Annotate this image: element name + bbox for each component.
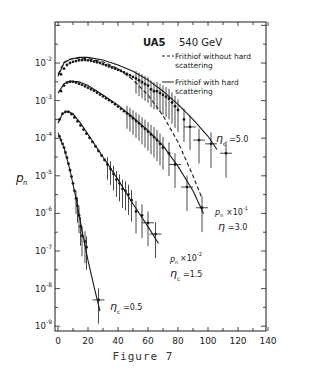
svg-text:×10: ×10: [180, 254, 197, 263]
data-point: [141, 204, 144, 238]
data-point: [144, 76, 147, 101]
data-point: [124, 181, 127, 210]
svg-text:-2: -2: [197, 251, 202, 257]
data-point: [90, 59, 93, 62]
annotation-eta-3: p n ×10 -1 η =3.0: [214, 205, 248, 233]
data-point: [120, 69, 123, 72]
data-point: [72, 182, 75, 185]
svg-text:n: n: [220, 212, 223, 218]
data-point: [91, 141, 94, 144]
data-point: [73, 189, 76, 192]
svg-text:10: 10: [35, 321, 46, 331]
x-tick-label: 140: [259, 336, 276, 346]
curve-with-hard-scattering: [58, 57, 217, 149]
data-point: [75, 60, 78, 63]
data-point: [69, 80, 72, 83]
data-point: [81, 226, 84, 256]
data-point: [79, 217, 82, 246]
plot-frame: 02040608010012014010-210-310-410-510-610…: [35, 22, 277, 346]
data-point: [126, 73, 129, 76]
x-tick-label: 80: [172, 336, 184, 346]
svg-text:=0.5: =0.5: [123, 303, 142, 312]
data-point: [120, 107, 123, 110]
data-point: [93, 60, 96, 63]
y-tick-label: 10-6: [35, 205, 52, 218]
x-tick-label: 0: [55, 336, 61, 346]
svg-text:10: 10: [35, 58, 46, 68]
data-point: [84, 85, 87, 88]
data-point: [153, 127, 156, 157]
data-point: [142, 211, 154, 246]
data-point: [79, 124, 82, 127]
data-point: [108, 99, 111, 102]
data-point: [153, 82, 156, 109]
data-point: [87, 59, 90, 62]
data-point: [81, 83, 84, 86]
annotation-eta-0-5: η c =0.5: [110, 300, 142, 315]
data-point: [132, 110, 135, 135]
svg-text:10: 10: [35, 133, 46, 143]
data-point: [130, 190, 133, 221]
data-point: [103, 159, 106, 162]
data-point: [118, 174, 121, 201]
data-point: [90, 88, 93, 91]
svg-text:c: c: [117, 308, 120, 315]
x-tick-label: 100: [199, 336, 216, 346]
annotation-eta-5: η c =5.0: [216, 132, 248, 147]
legend-label-with-hard: Frithiof with hard: [175, 78, 239, 87]
data-point: [117, 68, 120, 71]
data-point: [181, 176, 193, 211]
data-point: [144, 120, 147, 148]
data-point: [61, 112, 64, 115]
data-point: [96, 61, 99, 64]
data-point: [111, 66, 114, 69]
data-point: [171, 92, 174, 123]
data-point: [58, 118, 61, 121]
data-point: [138, 114, 141, 140]
data-point: [159, 133, 162, 165]
data-point: [106, 157, 109, 180]
y-tick-label: 10-4: [35, 130, 52, 143]
data-point: [82, 128, 85, 131]
data-point: [150, 125, 153, 155]
svg-text:×10: ×10: [226, 208, 243, 217]
data-point: [72, 80, 75, 83]
data-point: [78, 82, 81, 85]
data-point: [64, 110, 67, 113]
svg-text:10: 10: [35, 171, 46, 181]
y-tick-label: 10-9: [35, 318, 52, 331]
data-point: [60, 139, 63, 142]
data-point: [75, 81, 78, 84]
data-point: [87, 86, 90, 89]
svg-text:η: η: [170, 267, 177, 280]
data-point: [69, 62, 72, 65]
data-point: [81, 59, 84, 62]
data-point: [108, 65, 111, 68]
svg-text:-5: -5: [46, 168, 52, 175]
data-point: [96, 91, 99, 94]
data-point: [123, 71, 126, 74]
data-point: [156, 130, 159, 161]
data-point: [114, 103, 117, 106]
data-point: [168, 89, 171, 120]
svg-text:-3: -3: [46, 93, 52, 100]
x-tick-label: 40: [112, 336, 124, 346]
data-point: [150, 81, 153, 107]
data-point: [64, 151, 67, 154]
legend: Frithiof without hard scattering Frithio…: [162, 52, 251, 96]
curve-with-hard-scattering: [58, 81, 204, 213]
svg-text:η: η: [218, 220, 225, 233]
y-tick-label: 10-5: [35, 168, 52, 181]
data-point: [100, 154, 103, 157]
x-tick-label: 60: [142, 336, 154, 346]
data-point: [94, 145, 97, 148]
y-tick-label: 10-7: [35, 243, 52, 256]
data-point: [93, 89, 96, 92]
svg-text:-2: -2: [46, 55, 52, 62]
data-point: [69, 169, 72, 172]
data-point: [73, 116, 76, 119]
data-point: [99, 62, 102, 65]
legend-label-with-hard-2: scattering: [175, 87, 213, 96]
svg-text:n: n: [175, 259, 178, 265]
chart-title-energy: 540 GeV: [179, 37, 222, 48]
